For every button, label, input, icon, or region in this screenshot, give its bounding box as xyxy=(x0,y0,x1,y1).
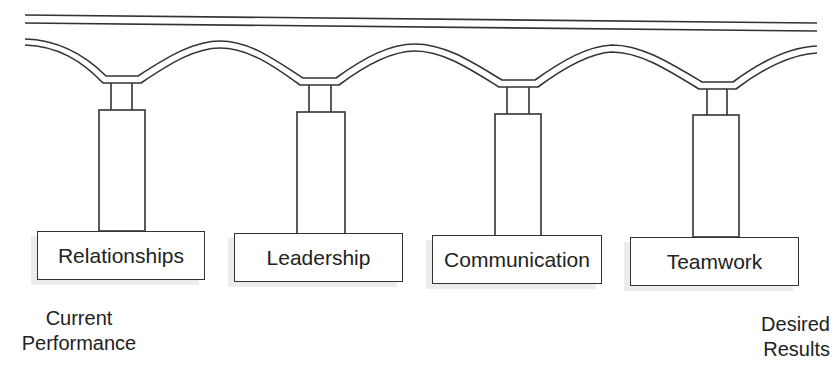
pillar-base-leadership: Leadership xyxy=(234,233,403,282)
pillar-column-3 xyxy=(495,114,541,236)
deck-line-top xyxy=(25,15,817,23)
current-performance-label: Current Performance xyxy=(14,306,144,356)
pillar-column-2 xyxy=(297,112,345,234)
pillar-label: Teamwork xyxy=(667,250,763,274)
arch-lower xyxy=(25,45,817,89)
pillar-label: Relationships xyxy=(58,244,184,268)
pillar-base-teamwork: Teamwork xyxy=(630,237,799,286)
pillar-base-relationships: Relationships xyxy=(37,231,205,280)
pillar-label: Communication xyxy=(444,248,590,272)
pillar-column-4 xyxy=(693,115,739,237)
pillar-base-communication: Communication xyxy=(432,235,602,284)
pillar-column-1 xyxy=(99,110,145,231)
deck-line-bottom xyxy=(25,23,817,31)
arch-upper xyxy=(25,39,817,82)
pillar-label: Leadership xyxy=(267,246,371,270)
desired-results-label: Desired Results xyxy=(740,312,830,362)
